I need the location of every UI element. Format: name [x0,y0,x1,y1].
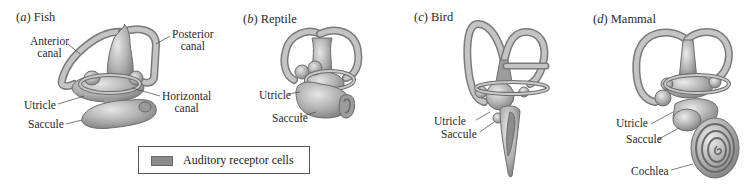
mammal-inner-ear-illustration [565,0,755,187]
label-saccule-bird: Saccule [441,128,477,140]
label-utricle-reptile: Utricle [259,89,291,101]
label-saccule-fish: Saccule [28,118,64,130]
panel-reptile: (b) Reptile Utricle Saccule [190,0,380,187]
label-utricle-bird: Utricle [434,115,466,127]
label-utricle-fish: Utricle [24,99,56,111]
label-saccule-mammal: Saccule [626,133,662,145]
label-anterior-canal: Anterior canal [30,35,69,59]
bird-inner-ear-illustration [380,0,570,187]
label-utricle-mammal: Utricle [616,117,648,129]
panel-bird: (c) Bird Utricle Saccule [380,0,570,187]
label-saccule-reptile: Saccule [272,112,308,124]
label-cochlea-mammal: Cochlea [631,165,669,177]
legend-swatch-receptor-cells [151,156,173,166]
panel-mammal: (d) Mammal Utricle Saccule Cochlea [565,0,755,187]
